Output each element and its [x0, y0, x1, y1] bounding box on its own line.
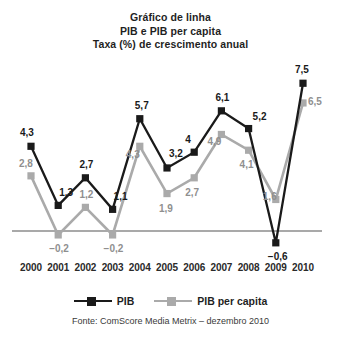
data-point-marker [245, 125, 252, 132]
data-point-marker [191, 174, 198, 181]
x-tick-label-2009: 2009 [261, 261, 291, 275]
data-point-marker [191, 149, 198, 156]
data-label: 6,5 [308, 97, 322, 107]
data-point-marker [136, 115, 143, 122]
chart-legend: PIB PIB per capita [0, 292, 341, 310]
plot-area: 4,31,32,71,15,73,246,15,2−0,67,52,8−0,21… [0, 0, 341, 300]
legend-item-pib-per-capita[interactable]: PIB per capita [154, 295, 267, 307]
x-tick-label-2002: 2002 [70, 261, 100, 275]
x-tick-label-2005: 2005 [152, 261, 182, 275]
chart-figure: Gráfico de linha PIB e PIB per capita Ta… [0, 0, 341, 338]
data-point-marker [163, 164, 170, 171]
data-label: 1,2 [79, 190, 93, 200]
data-point-marker [109, 231, 116, 238]
x-axis-tick-labels: 2000200120022003200420052006200720082009… [0, 261, 341, 277]
data-label: 1,6 [263, 192, 277, 202]
data-label: 4,1 [240, 160, 254, 170]
data-label: 4,3 [126, 150, 140, 160]
data-label: 4,3 [20, 128, 34, 138]
data-point-marker [245, 147, 252, 154]
data-point-marker [299, 80, 306, 87]
legend-swatch-pib [74, 295, 112, 307]
data-point-marker [27, 143, 34, 150]
data-point-marker [55, 231, 62, 238]
data-point-marker [272, 239, 279, 246]
x-tick-label-2001: 2001 [43, 261, 73, 275]
legend-item-pib[interactable]: PIB [74, 295, 135, 307]
data-point-marker [218, 107, 225, 114]
data-label: 1,3 [59, 188, 73, 198]
chart-source-note: Fonte: ComScore Media Metrix – dezembro … [0, 316, 341, 326]
data-label: −0,2 [49, 244, 69, 254]
data-label: 2,8 [19, 159, 33, 169]
data-label: 1,9 [159, 204, 173, 214]
legend-label-pib-per-capita: PIB per capita [197, 295, 267, 307]
data-point-marker [82, 204, 89, 211]
x-tick-label-2004: 2004 [125, 261, 155, 275]
data-label: 7,5 [295, 65, 309, 75]
x-tick-label-2006: 2006 [179, 261, 209, 275]
x-tick-label-2003: 2003 [98, 261, 128, 275]
data-label: 1,1 [114, 192, 128, 202]
data-label: 4,9 [207, 137, 221, 147]
data-point-marker [109, 206, 116, 213]
legend-label-pib: PIB [117, 295, 135, 307]
data-label: 4 [185, 135, 191, 145]
data-label: 2,7 [185, 188, 199, 198]
x-tick-label-2007: 2007 [206, 261, 236, 275]
x-tick-label-2000: 2000 [16, 261, 46, 275]
data-point-marker [27, 172, 34, 179]
x-tick-label-2010: 2010 [288, 261, 318, 275]
series-line-pib [31, 83, 303, 243]
data-point-marker [55, 202, 62, 209]
data-label: 3,2 [169, 149, 183, 159]
data-label: −0,2 [104, 244, 124, 254]
data-label: 5,7 [135, 101, 149, 111]
data-point-marker [82, 174, 89, 181]
x-tick-label-2008: 2008 [234, 261, 264, 275]
data-label: 2,7 [79, 160, 93, 170]
data-label: 5,2 [253, 112, 267, 122]
legend-swatch-pib-per-capita [154, 295, 192, 307]
data-label: 6,1 [215, 93, 229, 103]
data-point-marker [163, 190, 170, 197]
